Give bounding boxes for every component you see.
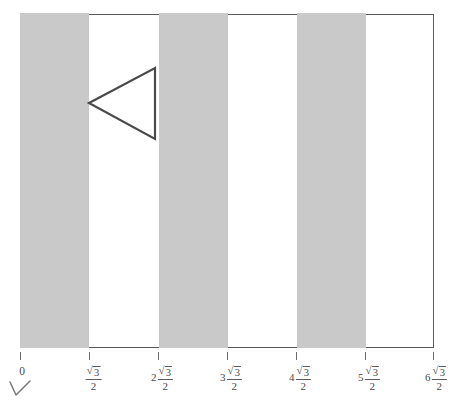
axis-tick-label-3-denominator: 2	[231, 380, 237, 392]
figure-canvas: 0 √ 3 2 2 √ 3 2 3	[0, 0, 460, 405]
axis-tick-label-2: 2 √ 3 2	[151, 365, 173, 392]
radical-icon: √ 3	[296, 365, 310, 378]
axis-tick-2	[158, 352, 159, 360]
axis-tick-4	[296, 352, 297, 360]
axis-tick-1	[89, 352, 90, 360]
axis-tick-label-3-radicand: 3	[234, 366, 241, 378]
axis-tick-label-4-numerator: √ 3	[295, 365, 311, 380]
axis-tick-label-5-fraction: √ 3 2	[364, 365, 380, 392]
radical-icon: √ 3	[227, 365, 241, 378]
radical-icon: √ 3	[432, 365, 446, 378]
axis-tick-label-6: 6 √ 3 2	[425, 365, 447, 392]
axis-tick-label-0-text: 0	[19, 366, 25, 378]
axis-tick-label-2-denominator: 2	[162, 380, 168, 392]
axis-tick-label-4-fraction: √ 3 2	[295, 365, 311, 392]
shaded-band-1	[20, 13, 89, 348]
radical-icon: √ 3	[365, 365, 379, 378]
handwritten-check-mark-icon	[8, 380, 38, 402]
axis-tick-label-6-fraction: √ 3 2	[431, 365, 447, 392]
axis-tick-label-5: 5 √ 3 2	[358, 365, 380, 392]
axis-tick-label-5-radicand: 3	[372, 366, 379, 378]
axis-tick-3	[227, 352, 228, 360]
axis-tick-label-1-radicand: 3	[93, 366, 100, 378]
radical-icon: √ 3	[87, 365, 101, 378]
axis-tick-label-5-denominator: 2	[369, 380, 375, 392]
axis-tick-label-3-fraction: √ 3 2	[226, 365, 242, 392]
axis-tick-label-6-radicand: 3	[439, 366, 446, 378]
radical-icon: √ 3	[158, 365, 172, 378]
axis-tick-label-1-numerator: √ 3	[86, 365, 102, 380]
axis-tick-0	[20, 352, 21, 360]
axis-tick-6	[433, 352, 434, 360]
axis-tick-label-4-denominator: 2	[300, 380, 306, 392]
axis-tick-label-2-numerator: √ 3	[157, 365, 173, 380]
axis-tick-label-1-denominator: 2	[91, 380, 97, 392]
axis-tick-label-5-numerator: √ 3	[364, 365, 380, 380]
axis-tick-label-1: √ 3 2	[85, 365, 102, 392]
axis-tick-label-4: 4 √ 3 2	[289, 365, 311, 392]
axis-tick-label-2-radicand: 3	[165, 366, 172, 378]
axis-tick-label-0: 0	[19, 366, 25, 378]
axis-tick-label-3-numerator: √ 3	[226, 365, 242, 380]
shaded-band-2	[159, 13, 228, 348]
axis-tick-label-4-radicand: 3	[303, 366, 310, 378]
axis-tick-label-1-fraction: √ 3 2	[86, 365, 102, 392]
shaded-band-3	[297, 13, 366, 348]
axis-tick-label-6-numerator: √ 3	[431, 365, 447, 380]
axis-tick-label-2-fraction: √ 3 2	[157, 365, 173, 392]
axis-tick-label-3: 3 √ 3 2	[220, 365, 242, 392]
plot-area	[20, 14, 434, 348]
axis-tick-5	[365, 352, 366, 360]
axis-tick-label-6-denominator: 2	[436, 380, 442, 392]
